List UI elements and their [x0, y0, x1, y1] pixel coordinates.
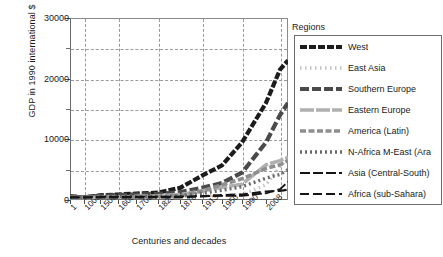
legend-box: WestEast AsiaSouthern EuropeEastern Euro…: [294, 35, 442, 205]
legend-item-label: Africa (sub-Sahara): [348, 189, 426, 199]
legend-line-sample: [299, 41, 343, 53]
legend-item[interactable]: Asia (Central-South): [295, 162, 441, 183]
chart-root: GDP in 1990 international $ Centuries an…: [0, 0, 443, 257]
legend-item-label: N-Africa M-East (Ara: [348, 147, 431, 157]
data-series-layer: [70, 18, 288, 200]
x-tick-label: 1: [68, 202, 78, 212]
legend-title: Regions: [292, 22, 325, 32]
y-tick-label: 30000: [44, 13, 69, 23]
legend-item-label: West: [348, 42, 368, 52]
legend-item[interactable]: Africa (sub-Sahara): [295, 183, 441, 204]
series-svg: [70, 18, 288, 200]
legend-line-sample: [299, 125, 343, 137]
x-axis-title: Centuries and decades: [70, 236, 288, 246]
legend-item-label: Asia (Central-South): [348, 168, 430, 178]
series-line-0: [70, 61, 288, 198]
legend-line-sample: [299, 62, 343, 74]
y-axis-title: GDP in 1990 international $: [27, 0, 37, 151]
legend-line-sample: [299, 167, 343, 179]
legend-item[interactable]: N-Africa M-East (Ara: [295, 141, 441, 162]
legend-item-label: America (Latin): [348, 126, 409, 136]
legend-item-label: Southern Europe: [348, 84, 416, 94]
legend-item[interactable]: West: [295, 36, 441, 57]
y-tick-label: 20000: [44, 74, 69, 84]
legend-item[interactable]: Southern Europe: [295, 78, 441, 99]
legend-line-sample: [299, 104, 343, 116]
legend-line-sample: [299, 188, 343, 200]
legend-item[interactable]: Eastern Europe: [295, 99, 441, 120]
legend-item[interactable]: East Asia: [295, 57, 441, 78]
legend-line-sample: [299, 146, 343, 158]
legend-item-label: Eastern Europe: [348, 105, 411, 115]
y-tick-label: 10000: [44, 134, 69, 144]
legend-item-label: East Asia: [348, 63, 386, 73]
legend-line-sample: [299, 83, 343, 95]
legend-item[interactable]: America (Latin): [295, 120, 441, 141]
